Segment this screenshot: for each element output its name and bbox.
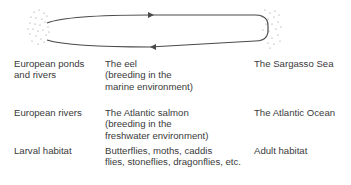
row1-left-habitat: European ponds and rivers [14,58,84,81]
row2-right-habitat: The Atlantic Ocean [254,107,335,118]
arrow-right-icon [148,12,154,18]
row2-left-habitat: European rivers [14,107,82,118]
row3-organism: Butterflies, moths, caddis flies, stonef… [105,145,241,168]
left-habitat-dots [27,9,49,44]
row2-organism: The Atlantic salmon (breeding in the fre… [105,107,208,141]
row1-right-habitat: The Sargasso Sea [254,58,333,69]
migration-loop-path [47,15,268,47]
row3-right-habitat: Adult habitat [254,145,307,156]
row3-left-habitat: Larval habitat [14,145,72,156]
right-habitat-dots [261,9,281,48]
arrow-left-icon [150,44,156,50]
migration-loop-diagram [0,0,351,56]
row1-organism: The eel (breeding in the marine environm… [105,58,193,92]
